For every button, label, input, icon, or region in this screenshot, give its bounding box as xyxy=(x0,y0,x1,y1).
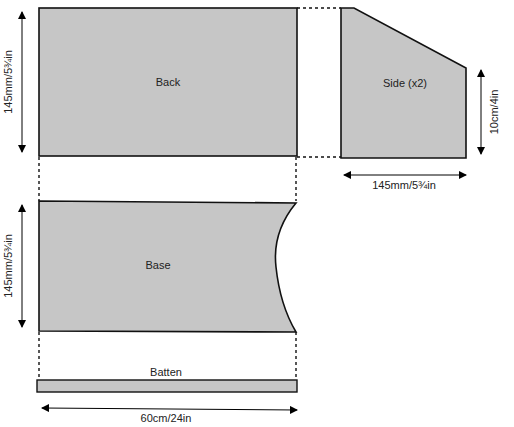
overall-width-label: 60cm/24in xyxy=(141,412,192,424)
side-width-label: 145mm/5¾in xyxy=(372,179,436,191)
base-height-label: 145mm/5¾in xyxy=(2,234,14,298)
dimension-side-width: 145mm/5¾in xyxy=(344,175,466,191)
base-label: Base xyxy=(145,259,170,271)
batten-label: Batten xyxy=(150,366,182,378)
dimension-side-height: 10cm/4in xyxy=(481,70,500,154)
side-height-label: 10cm/4in xyxy=(488,90,500,135)
side-piece: Side (x2) xyxy=(341,8,466,158)
dimension-base-height: 145mm/5¾in xyxy=(2,205,22,327)
pattern-diagram: Back Side (x2) Base Batten 145mm/5¾in 14… xyxy=(0,0,514,427)
back-piece: Back xyxy=(39,8,297,156)
dimension-back-height: 145mm/5¾in xyxy=(2,12,22,152)
dimension-overall-width: 60cm/24in xyxy=(42,408,297,424)
back-label: Back xyxy=(156,76,181,88)
batten-piece: Batten xyxy=(37,366,297,392)
base-piece: Base xyxy=(39,201,296,332)
back-height-label: 145mm/5¾in xyxy=(2,50,14,114)
side-label: Side (x2) xyxy=(383,77,427,89)
